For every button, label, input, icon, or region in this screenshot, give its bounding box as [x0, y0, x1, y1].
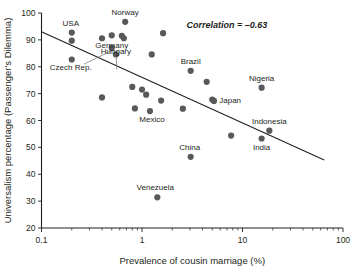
- point-label-india: India: [253, 143, 271, 152]
- scatter-chart: 20304050607080901000.1110100Prevalence o…: [0, 0, 353, 271]
- annotations-group: Correlation = –0.63: [187, 20, 268, 30]
- x-axis-title: Prevalence of cousin marriage (%): [119, 255, 265, 266]
- data-point: [160, 30, 166, 36]
- point-label-norway: Norway: [112, 8, 139, 17]
- x-tick-label: 10: [238, 235, 248, 245]
- trend-line: [42, 32, 325, 160]
- x-tick-label: 0.1: [36, 235, 48, 245]
- point-label-japan: Japan: [219, 96, 241, 105]
- y-tick-label: 90: [26, 35, 36, 45]
- labels-group: USACzech Rep.GermanyHungaryNorwayMexicoV…: [50, 8, 287, 192]
- data-point-india: [259, 135, 265, 141]
- trendline-group: [42, 32, 325, 160]
- y-tick-label: 50: [26, 142, 36, 152]
- data-point-china: [188, 154, 194, 160]
- x-tick-label: 100: [336, 235, 350, 245]
- data-point-norway: [122, 19, 128, 25]
- point-label-china: China: [179, 143, 200, 152]
- data-point-mexico: [147, 108, 153, 114]
- point-label-czech-rep: Czech Rep.: [50, 63, 92, 72]
- point-label-indonesia: Indonesia: [252, 117, 287, 126]
- data-point: [158, 98, 164, 104]
- data-point: [204, 79, 210, 85]
- y-axis-title: Universalism percentage (Passenger's Dil…: [2, 18, 13, 224]
- data-point: [69, 38, 75, 44]
- y-tick-label: 60: [26, 116, 36, 126]
- x-tick-label: 1: [140, 235, 145, 245]
- data-point-czech-rep: [69, 56, 75, 62]
- y-tick-label: 40: [26, 169, 36, 179]
- point-label-usa: USA: [63, 19, 80, 28]
- data-point: [109, 32, 115, 38]
- axes-group: 20304050607080901000.1110100Prevalence o…: [2, 8, 350, 266]
- data-point: [180, 106, 186, 112]
- chart-canvas: 20304050607080901000.1110100Prevalence o…: [0, 0, 353, 271]
- data-point: [99, 94, 105, 100]
- point-label-brazil: Brazil: [181, 57, 201, 66]
- point-label-mexico: Mexico: [139, 115, 165, 124]
- y-tick-label: 20: [26, 223, 36, 233]
- data-point-indonesia: [266, 128, 272, 134]
- data-point-brazil: [188, 68, 194, 74]
- data-point: [211, 98, 217, 104]
- data-point: [129, 84, 135, 90]
- data-point-usa: [69, 30, 75, 36]
- data-point-nigeria: [259, 85, 265, 91]
- data-point: [149, 51, 155, 57]
- data-point: [139, 86, 145, 92]
- y-tick-label: 70: [26, 89, 36, 99]
- point-label-venezuela: Venezuela: [137, 183, 175, 192]
- data-point-venezuela: [154, 194, 160, 200]
- y-tick-label: 80: [26, 62, 36, 72]
- point-label-hungary: Hungary: [101, 47, 131, 56]
- data-point: [143, 92, 149, 98]
- point-label-nigeria: Nigeria: [249, 74, 275, 83]
- y-tick-label: 100: [21, 8, 35, 18]
- correlation: Correlation = –0.63: [187, 20, 268, 30]
- y-tick-label: 30: [26, 196, 36, 206]
- data-point: [132, 105, 138, 111]
- data-point: [228, 132, 234, 138]
